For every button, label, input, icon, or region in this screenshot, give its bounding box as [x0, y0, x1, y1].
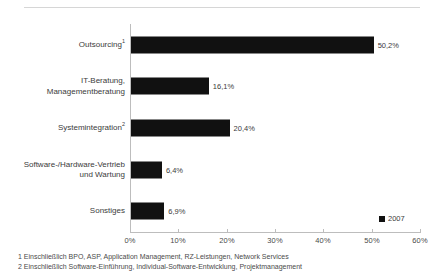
bar [131, 203, 164, 220]
x-axis-tick-label: 50% [364, 236, 379, 245]
category-label: Outsourcing1 [0, 40, 125, 51]
x-axis-tick-label: 10% [170, 236, 185, 245]
category-label: Sonstiges [0, 206, 125, 217]
footnote-marker: 2 [122, 121, 125, 127]
bar-row: Systemintegration2 20,4% [0, 107, 440, 149]
x-axis-tick-label: 30% [267, 236, 282, 245]
category-label-line: Managementberatung [47, 86, 125, 95]
x-axis-tick-label: 40% [315, 236, 330, 245]
footnote-2: 2 Einschließlich Software-Einführung, In… [18, 262, 428, 272]
bar-value-label: 16,1% [213, 82, 234, 91]
bar [131, 78, 209, 95]
category-label-line: Sonstiges [90, 206, 125, 215]
legend-label: 2007 [388, 214, 405, 223]
x-axis-tick-label: 60% [412, 236, 427, 245]
category-label-line: Systemintegration [58, 123, 122, 132]
horizontal-bar-chart: 0% 10% 20% 30% 40% 50% 60% Outsourcing1 … [0, 0, 440, 272]
footnotes-block: 1 Einschließlich BPO, ASP, Application M… [18, 252, 428, 271]
bar [131, 119, 230, 136]
category-label: IT-Beratung, Managementberatung [0, 76, 125, 97]
category-label: Systemintegration2 [0, 123, 125, 134]
category-label-line: Outsourcing [79, 40, 122, 49]
bar-value-label: 6,9% [168, 207, 185, 216]
category-label-line: und Wartung [79, 170, 125, 179]
bar-row: Software-/Hardware-Vertrieb und Wartung … [0, 149, 440, 191]
legend-swatch-icon [379, 216, 385, 222]
bar-value-label: 50,2% [378, 40, 399, 49]
bar-row: IT-Beratung, Managementberatung 16,1% [0, 66, 440, 108]
category-label: Software-/Hardware-Vertrieb und Wartung [0, 159, 125, 180]
chart-legend: 2007 [379, 214, 405, 223]
category-label-line: Software-/Hardware-Vertrieb [24, 159, 125, 168]
bar-row: Outsourcing1 50,2% [0, 24, 440, 66]
bar [131, 36, 374, 53]
bar-row: Sonstiges 6,9% [0, 190, 440, 232]
bar-value-label: 20,4% [234, 123, 255, 132]
x-axis-tick-label: 20% [219, 236, 234, 245]
footnote-marker: 1 [122, 38, 125, 44]
category-label-line: IT-Beratung, [81, 76, 125, 85]
bar [131, 161, 162, 178]
bar-value-label: 6,4% [166, 165, 183, 174]
footnote-1: 1 Einschließlich BPO, ASP, Application M… [18, 252, 428, 262]
x-axis-tick-label: 0% [124, 236, 135, 245]
